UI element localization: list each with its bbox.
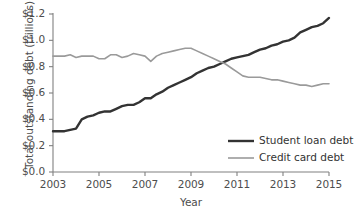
series-line-1 — [53, 18, 329, 131]
y-tick-label: $1.2 — [11, 7, 45, 19]
x-tick-label: 2009 — [171, 178, 211, 190]
y-tick-label: $0.8 — [11, 60, 45, 72]
x-tick-label: 2011 — [217, 178, 257, 190]
y-tick-label: $0.0 — [11, 165, 45, 177]
y-tick-label: $1.0 — [11, 33, 45, 45]
x-tick-label: 2013 — [263, 178, 303, 190]
series-line-2 — [53, 48, 329, 86]
y-tick-label: $0.4 — [11, 112, 45, 124]
chart-figure: Total outstanding debt (trillions) Year … — [0, 0, 354, 216]
x-axis-label: Year — [53, 196, 329, 208]
legend-label-1: Student loan debt — [259, 134, 353, 146]
y-tick-label: $0.6 — [11, 86, 45, 98]
x-tick-label: 2007 — [125, 178, 165, 190]
y-tick-label: $0.2 — [11, 139, 45, 151]
x-tick-label: 2015 — [309, 178, 349, 190]
legend-label-2: Credit card debt — [259, 151, 344, 163]
x-tick-label: 2005 — [79, 178, 119, 190]
x-tick-label: 2003 — [33, 178, 73, 190]
